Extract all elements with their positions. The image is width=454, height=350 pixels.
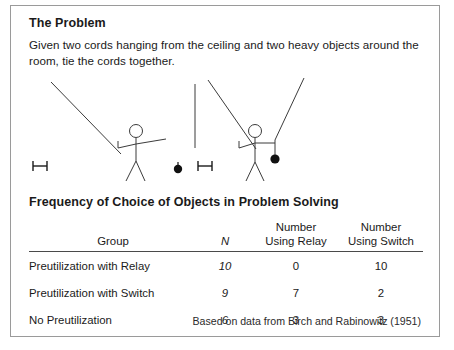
two-cord-problem-illustration <box>23 76 429 181</box>
column-header-using-switch-line2: Using Switch <box>348 235 414 247</box>
cell-using-switch: 10 <box>339 252 423 280</box>
pliers-right <box>198 161 212 171</box>
problem-heading: The Problem <box>29 16 106 30</box>
table-title: Frequency of Choice of Objects in Proble… <box>29 195 339 209</box>
problem-description: Given two cords hanging from the ceiling… <box>29 37 425 68</box>
table-row: Preutilization with Switch 9 7 2 <box>29 279 423 306</box>
pliers-left <box>33 161 47 171</box>
column-header-using-switch-line1: Number <box>361 221 402 233</box>
panel-left <box>51 82 195 181</box>
cord-right-b <box>275 78 304 140</box>
figure-left-leg-right <box>136 161 145 181</box>
figure-right-arm-left <box>239 143 255 148</box>
figure-left-head <box>130 125 143 138</box>
illustration-svg <box>23 76 429 181</box>
weight-right-ball <box>270 154 279 163</box>
column-header-using-relay-line2: Using Relay <box>265 235 326 247</box>
weight-right <box>270 154 279 163</box>
column-header-using-relay: Number Using Relay <box>253 221 339 252</box>
figure-right-head <box>249 125 262 138</box>
table-row: Preutilization with Relay 10 0 10 <box>29 252 423 280</box>
cell-using-relay: 0 <box>253 252 339 280</box>
cell-group: No Preutilization <box>29 306 197 333</box>
table-source-note: Based on data from Birch and Rabinowitz … <box>193 315 421 327</box>
cell-n: 10 <box>197 252 253 280</box>
figure-left-leg-left <box>126 161 136 181</box>
weight-left <box>174 162 182 173</box>
panel-right <box>208 78 304 181</box>
table-header-row: Group N Number Using Relay Number Using … <box>29 221 423 252</box>
cell-group: Preutilization with Switch <box>29 279 197 306</box>
column-header-n: N <box>197 221 253 252</box>
table-head: Group N Number Using Relay Number Using … <box>29 221 423 252</box>
cell-n: 9 <box>197 279 253 306</box>
figure-right-leg-left <box>246 162 255 181</box>
column-header-using-switch: Number Using Switch <box>339 221 423 252</box>
column-header-using-relay-line1: Number <box>276 221 317 233</box>
figure-left-arm-right <box>136 139 166 144</box>
cord-left-a <box>51 82 121 154</box>
weight-left-ball <box>174 165 182 173</box>
cell-using-switch: 2 <box>339 279 423 306</box>
cell-using-relay: 7 <box>253 279 339 306</box>
figure-right-leg-right <box>255 162 264 181</box>
column-header-group: Group <box>29 221 197 252</box>
cell-group: Preutilization with Relay <box>29 252 197 280</box>
cord-right-a <box>208 80 256 149</box>
figure-left-arm-left <box>118 144 136 148</box>
figure-card: The Problem Given two cords hanging from… <box>10 5 440 337</box>
